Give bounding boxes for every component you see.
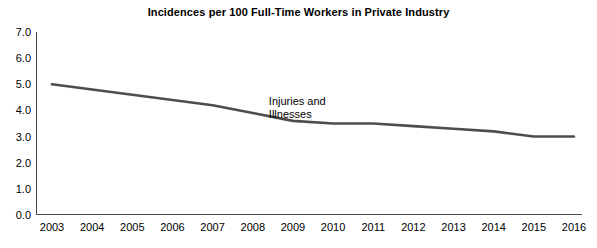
x-tick-label: 2007 [200, 221, 224, 233]
chart-container: Incidences per 100 Full-Time Workers in … [0, 0, 597, 248]
series-annotation-label: Injuries and Illnesses [269, 95, 326, 121]
x-tick-label: 2006 [160, 221, 184, 233]
x-tick-label: 2014 [481, 221, 505, 233]
y-tick-label: 3.0 [16, 131, 31, 143]
x-tick-label: 2011 [361, 221, 385, 233]
y-tick-label: 4.0 [16, 104, 31, 116]
x-tick-label: 2015 [522, 221, 546, 233]
x-tick-label: 2013 [441, 221, 465, 233]
x-tick-label: 2010 [321, 221, 345, 233]
x-tick-label: 2012 [401, 221, 425, 233]
plot-area: 0.01.02.03.04.05.06.07.0 200320042005200… [36, 32, 582, 215]
y-tick-label: 7.0 [16, 26, 31, 38]
y-tick-label: 1.0 [16, 183, 31, 195]
series-line-injuries-and-illnesses [36, 32, 582, 215]
y-tick-label: 6.0 [16, 52, 31, 64]
x-tick-label: 2004 [80, 221, 104, 233]
y-tick-label: 0.0 [16, 209, 31, 221]
y-tick-label: 2.0 [16, 157, 31, 169]
x-tick-label: 2009 [281, 221, 305, 233]
x-tick-label: 2016 [562, 221, 586, 233]
x-tick-label: 2005 [120, 221, 144, 233]
x-tick-label: 2003 [40, 221, 64, 233]
chart-title: Incidences per 100 Full-Time Workers in … [0, 6, 597, 18]
x-tick-label: 2008 [241, 221, 265, 233]
y-tick-label: 5.0 [16, 78, 31, 90]
